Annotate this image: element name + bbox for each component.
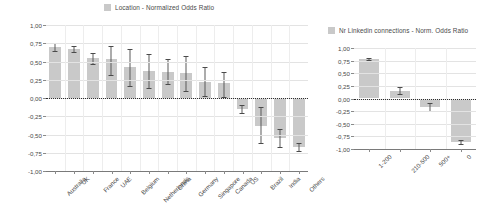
y-axis-tick-label: -0,75 (336, 133, 350, 140)
error-bar-cap-upper (277, 129, 282, 130)
y-axis-tick-label: -0,75 (28, 149, 42, 156)
x-axis-tick-label: Belgium (140, 175, 161, 196)
y-tickmark (43, 116, 46, 117)
x-tickmark (430, 149, 431, 152)
error-bar-cap-lower (53, 51, 58, 52)
error-bar-line (148, 54, 149, 88)
error-bar-cap-upper (184, 56, 189, 57)
legend-swatch-icon (104, 4, 111, 11)
x-tickmark (186, 171, 187, 174)
y-axis-tick-label: -0,50 (336, 120, 350, 127)
error-bar-cap-upper (165, 59, 170, 60)
error-bar-cap-upper (203, 67, 208, 68)
y-tickmark (43, 25, 46, 26)
x-tickmark (224, 171, 225, 174)
error-bar-cap-upper (367, 58, 372, 59)
error-bar-cap-upper (90, 53, 95, 54)
error-bar-cap-upper (221, 72, 226, 73)
x-tickmark (280, 171, 281, 174)
x-tickmark (93, 171, 94, 174)
y-tickmark (351, 73, 354, 74)
bar[interactable] (293, 98, 305, 147)
left-plot-area: 1,000,750,500,250,00-0,25-0,50-0,75-1,00 (46, 25, 308, 171)
y-axis-tick-label: 0,75 (338, 57, 350, 64)
error-bar-cap-lower (240, 113, 245, 114)
x-tickmark (369, 149, 370, 152)
left-chart-legend: Location - Normalized Odds Ratio (104, 4, 214, 11)
y-tickmark (43, 135, 46, 136)
error-bar-cap-lower (184, 91, 189, 92)
y-tickmark (351, 136, 354, 137)
x-tickmark (168, 171, 169, 174)
y-tickmark (43, 62, 46, 63)
x-axis-tick-label: France (101, 175, 120, 194)
error-bar-line (430, 103, 431, 111)
error-bar-cap-upper (72, 46, 77, 47)
error-bar-line (111, 46, 112, 74)
error-bar-line (399, 87, 400, 94)
x-tickmark (400, 149, 401, 152)
error-bar-cap-upper (428, 103, 433, 104)
bar[interactable] (68, 49, 80, 98)
error-bar-cap-lower (109, 75, 114, 76)
y-axis-tick-label: 0,00 (338, 95, 350, 102)
error-bar-cap-lower (146, 88, 151, 89)
y-tickmark (351, 86, 354, 87)
error-bar-cap-upper (240, 105, 245, 106)
x-axis-tick-label: 210-500 (409, 153, 430, 174)
y-axis-tick-label: -0,50 (28, 131, 42, 138)
error-bar-line (298, 143, 299, 150)
x-axis-tick-label: 500+ (437, 153, 452, 168)
bar[interactable] (49, 47, 61, 98)
x-tickmark (261, 171, 262, 174)
error-bar-cap-upper (458, 140, 463, 141)
bar[interactable] (359, 59, 379, 98)
x-tickmark (55, 171, 56, 174)
error-bar-cap-lower (259, 143, 264, 144)
x-tickmark (243, 171, 244, 174)
error-bar-cap-upper (397, 87, 402, 88)
legend-swatch-icon (328, 27, 335, 34)
y-axis-tick-label: 0,75 (30, 40, 42, 47)
error-bar-line (205, 67, 206, 96)
zero-reference-line (46, 98, 308, 99)
x-tickmark (299, 171, 300, 174)
right-chart-legend: Nr Linkedin connections - Norm. Odds Rat… (328, 27, 468, 34)
error-bar-line (279, 129, 280, 147)
error-bar-cap-lower (458, 144, 463, 145)
x-axis-tick-label: 1-200 (377, 153, 393, 169)
error-bar-line (261, 107, 262, 143)
error-bar-cap-lower (165, 84, 170, 85)
error-bar-cap-lower (128, 86, 133, 87)
x-axis-tick-label: China (175, 175, 191, 191)
left-legend-label: Location - Normalized Odds Ratio (115, 4, 214, 11)
y-tickmark (351, 111, 354, 112)
y-axis-tick-label: 0,25 (338, 82, 350, 89)
y-axis-tick-label: 0,00 (30, 95, 42, 102)
error-bar-line (242, 105, 243, 112)
right-plot-area: 1,000,750,500,250,00-0,25-0,50-0,75-1,00 (354, 48, 476, 149)
error-bar-cap-upper (296, 143, 301, 144)
linkedin-connections-odds-ratio-chart: Nr Linkedin connections - Norm. Odds Rat… (318, 0, 488, 213)
error-bar-cap-upper (146, 54, 151, 55)
y-axis-tick-label: 0,50 (30, 58, 42, 65)
x-tickmark (130, 171, 131, 174)
y-tickmark (43, 171, 46, 172)
y-axis-tick-label: -1,00 (28, 168, 42, 175)
error-bar-cap-lower (90, 64, 95, 65)
x-axis-tick-label: Brazil (269, 175, 285, 191)
error-bar-cap-lower (277, 147, 282, 148)
y-axis-tick-label: -0,25 (336, 108, 350, 115)
gridline (354, 149, 476, 150)
y-tickmark (351, 124, 354, 125)
error-bar-line (223, 72, 224, 97)
y-axis-tick-label: 1,00 (30, 22, 42, 29)
zero-reference-line (354, 99, 476, 100)
error-bar-cap-lower (397, 94, 402, 95)
y-axis-tick-label: -1,00 (336, 146, 350, 153)
x-tickmark (149, 171, 150, 174)
y-axis-tick-label: 1,00 (338, 45, 350, 52)
x-tickmark (112, 171, 113, 174)
y-axis-tick-label: 0,25 (30, 76, 42, 83)
x-tickmark (461, 149, 462, 152)
